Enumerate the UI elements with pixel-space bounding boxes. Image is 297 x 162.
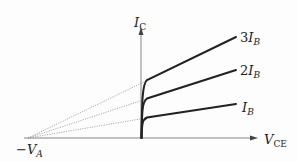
- early-label-sub: A: [36, 149, 43, 159]
- x-axis-label: VCE: [264, 133, 287, 146]
- early-label-main: V: [27, 142, 36, 157]
- early-label-prefix: −: [16, 142, 27, 157]
- x-label-main: V: [264, 132, 273, 147]
- early-extrapolation-lines: [28, 81, 146, 138]
- curve-label-3ib: 3IB: [240, 31, 260, 44]
- curve-label-sub: B: [253, 37, 260, 47]
- curve-2ib: [142, 70, 237, 138]
- x-axis-arrow-icon: [250, 136, 258, 141]
- characteristic-curves: [142, 37, 237, 138]
- curve-label-sub: B: [247, 107, 254, 117]
- curve-label-sub: B: [253, 70, 260, 80]
- curve-label-2ib: 2IB: [240, 64, 260, 77]
- curve-ib: [142, 104, 237, 138]
- curve-label-ib: IB: [242, 101, 254, 114]
- bjt-output-characteristics-diagram: IC VCE −VA 3IB 2IB IB: [0, 0, 297, 162]
- curve-3ib: [142, 37, 237, 138]
- early-voltage-label: −VA: [16, 143, 43, 156]
- diagram-graphic: [0, 0, 297, 162]
- x-label-sub: CE: [273, 139, 286, 149]
- y-label-sub: C: [139, 22, 146, 32]
- y-axis-label: IC: [134, 16, 146, 29]
